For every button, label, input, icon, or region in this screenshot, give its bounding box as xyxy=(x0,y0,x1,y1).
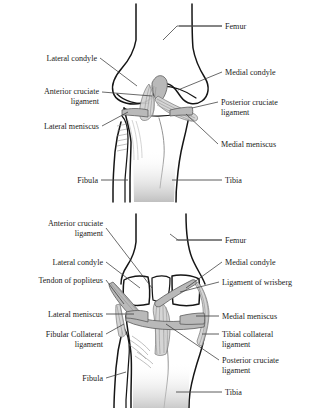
label-tibia: Tibia xyxy=(225,176,242,185)
leader-medial-meniscus xyxy=(186,114,218,144)
fibula-head xyxy=(122,116,128,202)
label-tibial-collateral-ligament-line1: Tibial collateral xyxy=(222,330,274,339)
label-anterior-cruciate-ligament-posterior-line2: ligament xyxy=(75,229,104,238)
fibula-outline xyxy=(113,122,121,202)
label-fibular-collateral-ligament-line2: ligament xyxy=(75,340,104,349)
label-anterior-cruciate-ligament-line1: Anterior cruciate xyxy=(44,87,99,96)
label-posterior-cruciate-ligament-posterior-line2: ligament xyxy=(222,366,251,375)
label-femur-posterior: Femur xyxy=(225,236,246,245)
fibula-head-posterior xyxy=(124,328,129,408)
figure-posterior-knee: Anterior cruciate ligament Femur Lateral… xyxy=(0,204,321,408)
leader-femur-posterior xyxy=(170,234,222,240)
posterior-bone-group xyxy=(109,214,209,408)
label-medial-meniscus: Medial meniscus xyxy=(221,140,276,149)
label-anterior-cruciate-ligament-posterior-line1: Anterior cruciate xyxy=(48,219,103,228)
label-lateral-meniscus: Lateral meniscus xyxy=(44,122,99,131)
label-posterior-cruciate-ligament-line2: ligament xyxy=(221,108,250,117)
label-femur: Femur xyxy=(225,22,246,31)
medial-meniscus-posterior xyxy=(180,313,205,324)
label-fibula-posterior: Fibula xyxy=(82,374,103,383)
anterior-bone-group xyxy=(112,4,208,202)
label-medial-condyle-posterior: Medial condyle xyxy=(225,258,276,267)
label-posterior-cruciate-ligament-line1: Posterior cruciate xyxy=(221,98,278,107)
leader-medial-condyle-posterior xyxy=(186,262,222,288)
label-tibial-collateral-ligament-line2: ligament xyxy=(222,340,251,349)
label-lateral-condyle: Lateral condyle xyxy=(46,54,97,63)
label-medial-meniscus-posterior: Medial meniscus xyxy=(222,312,277,321)
leader-posterior-cruciate-ligament-posterior xyxy=(166,324,219,360)
label-anterior-cruciate-ligament-line2: ligament xyxy=(71,97,100,106)
label-lateral-condyle-posterior: Lateral condyle xyxy=(52,258,103,267)
label-medial-condyle: Medial condyle xyxy=(225,68,276,77)
label-tibia-posterior: Tibia xyxy=(225,388,242,397)
tibia-shaft-shading xyxy=(133,150,176,202)
label-lateral-meniscus-posterior: Lateral meniscus xyxy=(48,310,103,319)
label-fibula: Fibula xyxy=(77,176,98,185)
label-posterior-cruciate-ligament-posterior-line1: Posterior cruciate xyxy=(222,356,279,365)
fibula-outline-posterior xyxy=(114,332,122,408)
label-fibular-collateral-ligament-line1: Fibular Collateral xyxy=(46,330,104,339)
label-tendon-of-popliteus: Tendon of popliteus xyxy=(38,276,103,285)
label-ligament-of-wrisberg: Ligament of wrisberg xyxy=(222,278,292,287)
femur-outline-posterior xyxy=(121,214,205,284)
figure-anterior-knee: Femur Lateral condyle Medial condyle Ant… xyxy=(0,0,321,204)
tibia-shaft-shading-posterior xyxy=(133,362,190,408)
